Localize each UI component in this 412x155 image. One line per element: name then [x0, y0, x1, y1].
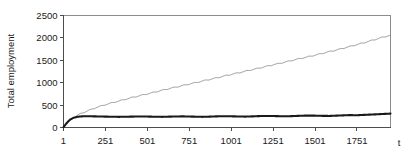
y-tick-label: 2000 [36, 32, 57, 43]
series-lower-trend [64, 114, 391, 128]
x-tick-label: 501 [139, 135, 155, 146]
y-tick-label: 2500 [36, 10, 57, 21]
x-axis-ticks: 12515017511001125115011751 [61, 128, 368, 146]
y-axis-ticks: 05001000150020002500 [36, 10, 63, 133]
employment-line-chart: 05001000150020002500 1251501751100112511… [0, 0, 412, 155]
plot-frame [64, 16, 391, 128]
x-tick-label: 1 [61, 135, 66, 146]
x-tick-label: 251 [97, 135, 113, 146]
data-series-group [64, 35, 391, 127]
x-tick-label: 1501 [304, 135, 325, 146]
y-tick-label: 1500 [36, 55, 57, 66]
x-tick-label: 1001 [221, 135, 242, 146]
y-tick-label: 1000 [36, 77, 57, 88]
x-tick-label: 1251 [263, 135, 284, 146]
series-upper-trend [64, 35, 391, 127]
x-tick-label: 1751 [346, 135, 367, 146]
x-tick-label: 751 [181, 135, 197, 146]
chart-container: 05001000150020002500 1251501751100112511… [0, 0, 412, 155]
y-axis-title: Total employment [5, 33, 16, 108]
y-tick-label: 0 [52, 122, 57, 133]
x-axis-title: t [398, 137, 401, 148]
y-tick-label: 500 [42, 100, 58, 111]
